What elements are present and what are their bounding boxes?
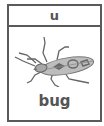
letter-header: u	[9, 6, 100, 27]
picture-area	[9, 29, 100, 87]
letter-label: u	[50, 9, 59, 22]
word-label: bug	[9, 94, 100, 109]
flashcard: u bug	[7, 4, 102, 122]
bug-icon	[9, 29, 100, 87]
